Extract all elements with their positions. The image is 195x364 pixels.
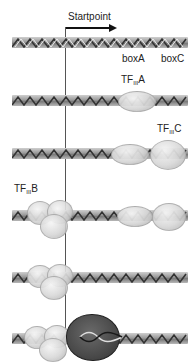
dna-helix-icon [12,37,188,48]
tfiiia-label: TFIIIA [121,75,145,86]
dna-helix-icon [12,95,188,106]
dna-strand-2 [12,95,188,106]
boxc-label: boxC [161,54,184,64]
boxa-label: boxA [122,54,145,64]
startpoint-arrow-shaft [65,27,111,29]
tfiiib-protein [39,338,67,362]
unwound-dna-bubble-icon [78,330,124,344]
startpoint-label: Startpoint [68,12,111,22]
tfiiia-protein [111,144,149,165]
tfiiib-protein [40,276,68,300]
tfiiib-protein [40,214,68,239]
tfiiia-protein [117,206,153,227]
tfiiia-protein [118,91,156,112]
tfiiic-protein [150,140,186,170]
dna-strand-1 [12,37,188,48]
tfiiib-label: TFIIIB [14,184,38,195]
tfiiic-protein [152,203,186,231]
tfiiic-label: TFIIIC [157,124,181,135]
startpoint-arrow-icon [109,24,117,32]
